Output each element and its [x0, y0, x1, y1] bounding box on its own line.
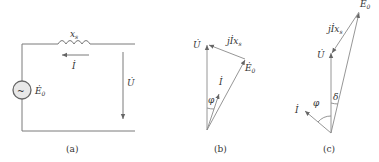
voltage-label: U̇ — [127, 77, 135, 88]
u-label: U̇ — [317, 49, 325, 60]
phi-arc — [318, 116, 331, 122]
wire-bottom — [22, 99, 135, 131]
phi-arc — [207, 108, 214, 109]
source-label: Ė0 — [34, 85, 46, 97]
phasor-diagram-figure: xs İ ~ Ė0 U̇ (a) U̇ jİxs Ė0 İ φ (b) Ė0 j… — [0, 0, 379, 162]
phi-label: φ — [208, 95, 215, 105]
phi-label: φ — [313, 98, 320, 108]
u-label: U̇ — [193, 39, 201, 50]
current-label: İ — [71, 60, 76, 71]
jix-label: jİxs — [326, 23, 343, 35]
inductor-icon — [58, 41, 90, 45]
phasor-panel-b: U̇ jİxs Ė0 İ φ (b) — [193, 35, 256, 154]
delta-arc — [331, 103, 338, 104]
inductor-label: xs — [70, 29, 78, 40]
i-label: İ — [218, 76, 223, 87]
circuit-panel-a: xs İ ~ Ė0 U̇ (a) — [13, 29, 135, 154]
i-label: İ — [294, 104, 299, 115]
caption-c: (c) — [323, 144, 335, 154]
e0-label-c: Ė0 — [359, 0, 371, 10]
jix-phasor — [209, 45, 245, 59]
caption-b: (b) — [214, 144, 227, 154]
phasor-panel-c: Ė0 jİxs U̇ İ φ δ (c) — [294, 0, 371, 154]
e0-label: Ė0 — [244, 62, 256, 74]
jix-label: jİxs — [225, 35, 242, 47]
ac-source-symbol: ~ — [17, 86, 25, 96]
delta-label: δ — [333, 92, 338, 102]
caption-a: (a) — [66, 144, 78, 154]
wire-top-left — [22, 44, 58, 81]
